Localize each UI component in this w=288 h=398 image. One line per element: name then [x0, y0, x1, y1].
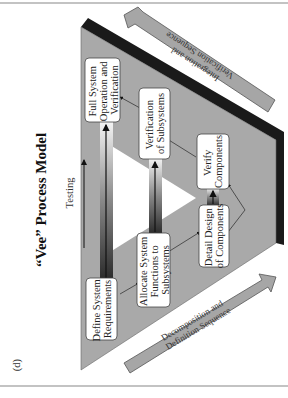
full-system-line-1: Full System [87, 66, 98, 116]
panel-label: (d) [11, 358, 23, 371]
box-full-system-verification: Full System Operation and Verification [85, 58, 120, 122]
figure-title: “Vee” Process Model [33, 133, 49, 267]
testing-label: Testing [64, 177, 75, 209]
allocate-line-2: Functions to [149, 245, 160, 297]
define-line-1: Define System [91, 279, 102, 341]
full-system-line-3: Verification [109, 64, 120, 114]
svg-text:Define System Requiremen: Define System Requirements [91, 277, 113, 342]
vee-diagram: Integration and Verification Sequence De… [0, 0, 288, 398]
box-verify-components: Verify Components [197, 134, 229, 189]
allocate-line-1: Allocate System [138, 237, 149, 306]
vee-process-model-figure: Integration and Verification Sequence De… [0, 0, 288, 398]
svg-text:Detail Design of Compone: Detail Design of Components [203, 204, 225, 268]
full-system-line-2: Operation and [98, 61, 109, 122]
verify-subsystems-line-1: Verification [144, 99, 155, 149]
svg-text:Verification of Subsyste: Verification of Subsystems [144, 93, 166, 154]
detail-line-1: Detail Design [203, 208, 214, 267]
define-line-2: Requirements [102, 280, 113, 338]
box-define-requirements: Define System Requirements [86, 277, 117, 342]
box-allocate-functions: Allocate System Functions to Subsystems [137, 233, 171, 307]
box-verification-subsystems: Verification of Subsystems [139, 88, 170, 159]
svg-text:Full System Operation an: Full System Operation and Verification [87, 59, 120, 121]
verify-components-line-1: Verify [202, 149, 213, 176]
verify-components-line-2: Components [213, 135, 224, 188]
verify-subsystems-line-2: of Subsystems [155, 93, 166, 154]
detail-line-2: of Components [214, 204, 225, 268]
box-detail-design: Detail Design of Components [199, 204, 229, 268]
allocate-line-3: Subsystems [160, 245, 171, 295]
